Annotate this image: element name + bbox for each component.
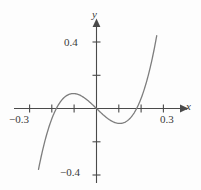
x-axis: [14, 105, 189, 113]
coordinate-plot: [0, 0, 201, 190]
x-axis-label-positive: 0.3: [160, 114, 174, 125]
y-axis-label-negative: −0.4: [60, 167, 80, 178]
y-axis: [93, 19, 101, 184]
cubic-curve: [39, 36, 157, 170]
y-axis-name: y: [92, 9, 97, 20]
x-axis-name: x: [186, 101, 191, 112]
x-axis-label-negative: −0.3: [9, 114, 29, 125]
y-axis-label-positive: 0.4: [64, 37, 78, 48]
graph-figure: −0.3 0.3 0.4 −0.4 x y: [0, 0, 201, 190]
